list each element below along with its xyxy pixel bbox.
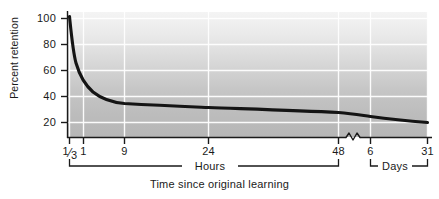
x-tick-label-9: 9: [117, 145, 132, 157]
y-tick-label-100: 100: [26, 12, 56, 24]
y-tick-label-40: 40: [26, 90, 56, 102]
days-group-bracket-right: [412, 159, 428, 166]
x-tick-marks: [70, 138, 428, 145]
x-tick-label-31: 31: [417, 145, 438, 157]
y-axis-title: Percent retention: [8, 10, 20, 106]
x-tick-label-1: 1: [76, 145, 91, 157]
x-axis-title: Time since original learning: [0, 178, 439, 190]
x-group-label-days: Days: [378, 160, 412, 172]
hours-group-bracket-right: [238, 159, 339, 166]
x-tick-label-6: 6: [363, 145, 378, 157]
x-tick-label-48: 48: [328, 145, 349, 157]
y-tick-label-80: 80: [26, 38, 56, 50]
y-tick-marks: [61, 19, 68, 123]
days-group-bracket: [371, 159, 379, 166]
forgetting-curve-figure: Percent retention 100 80 60 40 20 1⁄3 1 …: [0, 0, 439, 199]
y-tick-label-60: 60: [26, 64, 56, 76]
hours-group-bracket: [70, 159, 183, 166]
y-tick-label-20: 20: [26, 116, 56, 128]
x-group-label-hours: Hours: [182, 160, 238, 172]
x-tick-label-24: 24: [198, 145, 219, 157]
